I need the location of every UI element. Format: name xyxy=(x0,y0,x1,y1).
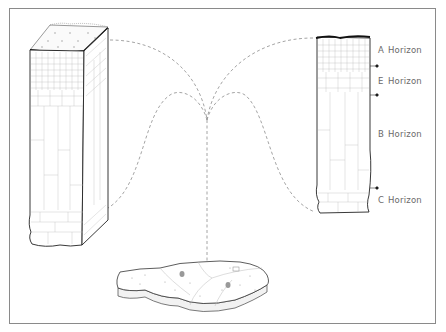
horizon-word: Horizon xyxy=(388,45,422,55)
horizon-label-c: CHorizon xyxy=(378,195,422,205)
horizon-word: Horizon xyxy=(388,76,422,86)
horizon-label-e: EHorizon xyxy=(378,76,422,86)
landscape-parcel xyxy=(117,261,269,312)
horizon-letter: B xyxy=(378,129,388,139)
horizon-letter: A xyxy=(378,45,388,55)
soil-monolith-block xyxy=(29,23,108,246)
tree-icon xyxy=(226,282,231,288)
horizon-label-a: AHorizon xyxy=(378,45,422,55)
tree-icon xyxy=(180,271,185,277)
horizon-letter: E xyxy=(378,76,388,86)
soil-profile-column xyxy=(316,36,378,213)
horizon-label-b: BHorizon xyxy=(378,129,422,139)
horizon-word: Horizon xyxy=(388,129,422,139)
horizon-letter: C xyxy=(378,195,388,205)
dashed-connectors xyxy=(100,38,315,282)
horizon-word: Horizon xyxy=(388,195,422,205)
house-icon xyxy=(233,267,239,271)
